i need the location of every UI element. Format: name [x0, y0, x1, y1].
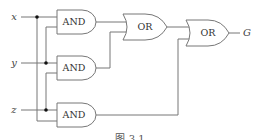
junction-dot-z	[44, 108, 48, 112]
wire-y	[21, 27, 57, 63]
and-gate-2: AND	[57, 56, 96, 80]
logic-circuit-diagram: x y z AND AND AND OR	[0, 0, 260, 140]
input-label-z: z	[10, 104, 17, 115]
wire-x	[21, 17, 57, 121]
and-gate-1: AND	[57, 10, 96, 34]
and-gate-1-label: AND	[62, 16, 86, 27]
figure-caption: 图 3.1	[0, 133, 260, 140]
junction-dot-y	[44, 61, 48, 65]
junction-dot-x	[35, 15, 39, 19]
input-label-x: x	[11, 11, 17, 22]
and-gate-3-label: AND	[62, 109, 86, 120]
and-gate-2-label: AND	[62, 62, 86, 73]
or-gate-2: OR	[186, 20, 229, 46]
or-gate-2-label: OR	[201, 27, 217, 38]
and-gate-3: AND	[57, 103, 96, 127]
output-label-g: G	[243, 27, 251, 38]
input-label-y: y	[10, 57, 17, 68]
wire-and2-to-or1	[96, 32, 127, 68]
or-gate-1-label: OR	[138, 21, 154, 32]
wire-z	[21, 73, 57, 110]
or-gate-1: OR	[123, 14, 167, 40]
